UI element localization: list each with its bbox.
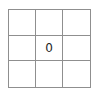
grid-cell[interactable] <box>63 10 90 36</box>
grid-cell[interactable] <box>63 61 90 87</box>
grid-cell[interactable] <box>9 61 36 87</box>
grid-cell[interactable] <box>36 10 63 36</box>
grid-cell[interactable] <box>9 10 36 36</box>
grid-cell[interactable] <box>63 36 90 62</box>
grid-cell[interactable] <box>36 61 63 87</box>
grid-cell[interactable] <box>9 36 36 62</box>
game-board: 0 <box>8 9 91 88</box>
grid-cell-center-value[interactable]: 0 <box>36 36 63 62</box>
